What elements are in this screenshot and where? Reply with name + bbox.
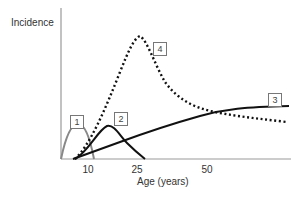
y-axis-label: Incidence [11, 17, 54, 28]
curve-label-3: 3 [268, 93, 282, 107]
curve-label-4: 4 [153, 42, 167, 56]
x-tick-50: 50 [201, 164, 212, 175]
curve-label-1: 1 [70, 115, 84, 129]
curve-label-2: 2 [114, 112, 128, 126]
x-tick-10: 10 [82, 164, 93, 175]
curve-3 [73, 106, 289, 159]
chart-plot [0, 0, 299, 201]
x-tick-25: 25 [131, 164, 142, 175]
x-axis-label: Age (years) [137, 176, 189, 187]
curve-4 [75, 36, 287, 159]
